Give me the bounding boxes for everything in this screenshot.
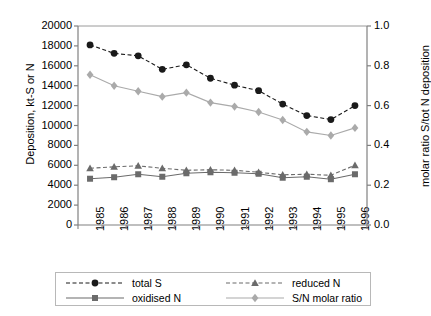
chart-legend: total Sreduced N oxidised NS/N molar rat…: [55, 272, 371, 306]
legend-square-icon: [64, 291, 126, 305]
legend-row: oxidised NS/N molar ratio: [56, 290, 370, 305]
legend-entry[interactable]: reduced N: [224, 275, 340, 290]
legend-label: reduced N: [292, 277, 340, 289]
legend-diamond-icon: [224, 291, 286, 305]
legend-circle-icon: [64, 276, 126, 290]
legend-label: S/N molar ratio: [292, 292, 362, 304]
legend-row: total Sreduced N: [56, 275, 370, 290]
legend-entry[interactable]: S/N molar ratio: [224, 290, 362, 305]
series-total-s: [87, 42, 359, 123]
series-oxidised-n: [87, 169, 358, 182]
legend-label: oxidised N: [132, 292, 181, 304]
legend-label: total S: [132, 277, 162, 289]
legend-entry[interactable]: oxidised N: [64, 290, 181, 305]
legend-entry[interactable]: total S: [64, 275, 162, 290]
series-s-n-molar-ratio: [87, 71, 359, 140]
legend-triangle-icon: [224, 276, 286, 290]
